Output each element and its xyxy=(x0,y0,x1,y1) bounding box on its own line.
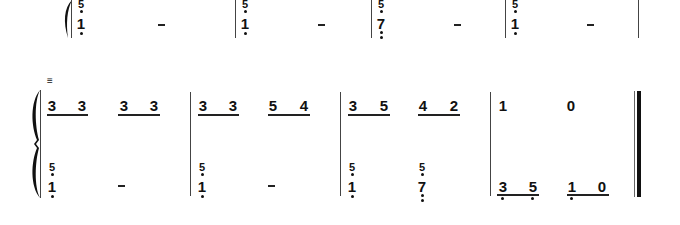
beam xyxy=(118,114,160,116)
sustain-dash xyxy=(118,185,125,187)
chord-top: 5 xyxy=(47,162,57,173)
octave-dot xyxy=(380,31,383,34)
sustain-dash xyxy=(268,185,275,187)
rest: 0 xyxy=(596,179,608,194)
barline xyxy=(505,0,506,38)
barline xyxy=(490,92,491,196)
beam xyxy=(198,114,239,116)
barline xyxy=(190,92,191,196)
sustain-dash xyxy=(454,24,461,26)
beam xyxy=(348,114,390,116)
sustain-dash xyxy=(318,24,325,26)
note-7: 7 xyxy=(375,16,387,31)
octave-dot xyxy=(514,32,517,35)
note: 2 xyxy=(448,98,460,113)
note: 4 xyxy=(417,98,429,113)
note: 5 xyxy=(378,98,390,113)
chord-top: 5 xyxy=(347,162,357,173)
beam xyxy=(497,194,539,196)
note-5: 5 xyxy=(376,0,386,10)
note: 5 xyxy=(527,179,539,194)
final-barline-thin xyxy=(634,91,635,197)
octave-dot xyxy=(80,32,83,35)
octave-dot xyxy=(244,32,247,35)
note-5: 5 xyxy=(240,0,250,10)
barline xyxy=(235,0,236,38)
note-1: 1 xyxy=(509,16,521,31)
octave-dot xyxy=(244,10,247,13)
octave-dot xyxy=(570,197,573,200)
octave-dot xyxy=(531,197,534,200)
note: 3 xyxy=(197,98,209,113)
beam xyxy=(268,114,310,116)
octave-dot xyxy=(380,36,383,39)
octave-dot xyxy=(351,173,354,176)
chord-top: 5 xyxy=(417,162,427,173)
octave-dot xyxy=(51,173,54,176)
note: 4 xyxy=(298,98,310,113)
note: 1 xyxy=(566,179,578,194)
note: 3 xyxy=(46,98,58,113)
octave-dot xyxy=(201,173,204,176)
beam xyxy=(47,114,88,116)
octave-dot xyxy=(421,199,424,202)
note-1: 1 xyxy=(239,16,251,31)
barline xyxy=(638,0,639,38)
octave-dot xyxy=(80,10,83,13)
chord-top: 5 xyxy=(197,162,207,173)
note: 3 xyxy=(118,98,130,113)
octave-dot xyxy=(201,195,204,198)
octave-dot xyxy=(51,195,54,198)
octave-dot xyxy=(421,194,424,197)
note: 3 xyxy=(227,98,239,113)
chord-bottom: 1 xyxy=(196,179,208,194)
octave-dot xyxy=(351,195,354,198)
barline xyxy=(71,0,72,38)
rest: 0 xyxy=(565,98,577,113)
barline xyxy=(40,90,41,198)
chord-bottom: 1 xyxy=(46,179,58,194)
tremolo-mark: ≡ xyxy=(47,76,53,86)
sustain-dash xyxy=(587,24,594,26)
barline xyxy=(340,92,341,196)
octave-dot xyxy=(421,173,424,176)
final-barline-thick xyxy=(637,91,641,197)
note: 3 xyxy=(497,179,509,194)
beam xyxy=(418,114,460,116)
note: 5 xyxy=(267,98,279,113)
note: 3 xyxy=(148,98,160,113)
note-5: 5 xyxy=(76,0,86,10)
note-5: 5 xyxy=(510,0,520,10)
chord-bottom: 7 xyxy=(416,179,428,194)
octave-dot xyxy=(514,10,517,13)
barline xyxy=(371,0,372,38)
octave-dot xyxy=(380,10,383,13)
note-1: 1 xyxy=(75,16,87,31)
chord-bottom: 1 xyxy=(346,179,358,194)
note: 1 xyxy=(497,98,509,113)
note: 3 xyxy=(347,98,359,113)
sustain-dash xyxy=(158,24,165,26)
beam xyxy=(567,194,609,196)
note: 3 xyxy=(76,98,88,113)
octave-dot xyxy=(501,197,504,200)
